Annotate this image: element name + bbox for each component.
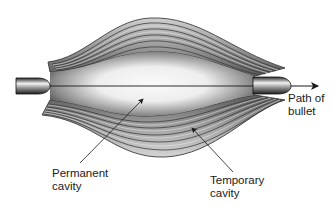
bullet-icon [253,77,291,94]
path-of-bullet-label: Path of bullet [288,92,324,118]
temporary-cavity-label: Temporary cavity [210,174,264,200]
permanent-label-line1: Permanent [52,167,108,180]
permanent-cavity-label: Permanent cavity [52,167,108,193]
path-label-line2: bullet [288,105,324,118]
temporary-label-line2: cavity [210,187,264,200]
bullet-icon [16,78,50,94]
path-label-line1: Path of [288,92,324,105]
temporary-label-line1: Temporary [210,174,264,187]
wound-cavity-diagram [0,0,331,206]
permanent-label-line2: cavity [52,180,108,193]
